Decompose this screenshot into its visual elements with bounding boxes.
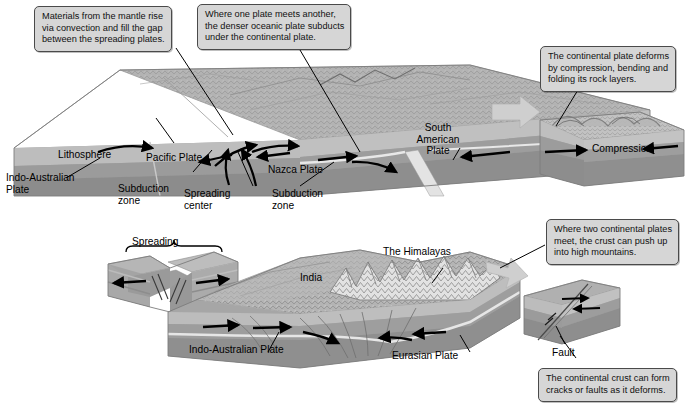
label-pacific-plate: Pacific Plate — [146, 152, 202, 164]
callout-line: between the spreading plates. — [42, 34, 165, 46]
callout-line: via convection and fill the gap — [42, 23, 165, 35]
label-the-himalayas: The Himalayas — [383, 246, 451, 258]
label-indo-australian-plate-top: Indo-Australian Plate — [6, 172, 75, 195]
callout-faults[interactable]: The continental crust can form cracks or… — [538, 368, 677, 402]
label-nazca-plate: Nazca Plate — [268, 164, 323, 176]
label-india: India — [300, 272, 322, 284]
callout-line: Where one plate meets another, — [205, 9, 344, 21]
label-spreading: Spreading — [132, 236, 178, 248]
callout-line: The continental crust can form — [546, 373, 670, 385]
label-subduction-zone-left: Subduction zone — [118, 183, 169, 206]
callout-line: into high mountains. — [554, 247, 672, 259]
callout-subduction[interactable]: Where one plate meets another, the dense… — [197, 4, 351, 50]
callout-line: cracks or faults as it deforms. — [546, 385, 670, 397]
callout-mantle-convection[interactable]: Materials from the mantle rise via conve… — [34, 6, 172, 52]
callout-mountains[interactable]: Where two continental plates meet, the c… — [546, 219, 679, 265]
label-line: Plate — [406, 145, 470, 157]
callout-line: under the continental plate. — [205, 32, 344, 44]
label-line: zone — [272, 200, 323, 212]
label-line: Spreading — [184, 188, 230, 200]
callout-line: Where two continental plates — [554, 224, 672, 236]
label-south-american-plate: South American Plate — [406, 122, 470, 157]
label-line: Subduction — [118, 183, 169, 195]
label-spreading-center: Spreading center — [184, 188, 230, 211]
label-indo-australian-plate-bottom: Indo-Australian Plate — [189, 344, 284, 356]
label-line: Subduction — [272, 188, 323, 200]
callout-line: meet, the crust can push up — [554, 236, 672, 248]
diagram-canvas: Materials from the mantle rise via conve… — [0, 0, 700, 413]
label-subduction-zone-right: Subduction zone — [272, 188, 323, 211]
fault-block — [524, 280, 620, 344]
label-line: American — [406, 134, 470, 146]
label-fault: Fault — [552, 347, 575, 359]
label-eurasian-plate: Eurasian Plate — [392, 350, 458, 362]
label-line: South — [406, 122, 470, 134]
callout-line: Materials from the mantle rise — [42, 11, 165, 23]
callout-line: The continental plate deforms — [548, 51, 669, 63]
label-line: Indo-Australian — [6, 172, 75, 184]
label-compression: Compression — [592, 143, 652, 155]
label-line: Plate — [6, 184, 75, 196]
callout-line: the denser oceanic plate subducts — [205, 21, 344, 33]
label-line: center — [184, 200, 230, 212]
label-line: zone — [118, 195, 169, 207]
callout-compression-deform[interactable]: The continental plate deforms by compres… — [540, 46, 676, 92]
callout-line: by compression, bending and — [548, 63, 669, 75]
label-lithosphere: Lithosphere — [58, 149, 111, 161]
callout-line: folding its rock layers. — [548, 74, 669, 86]
